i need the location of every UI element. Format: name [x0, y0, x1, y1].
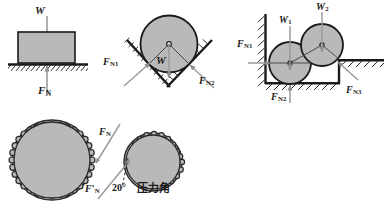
- label-W2-corner: W2: [316, 2, 329, 13]
- label-FN2-vee: FN2: [199, 76, 214, 87]
- label-FN-gear: FN: [99, 127, 111, 138]
- normal-force-arrow-FN1: [124, 63, 150, 86]
- left-wall-hatching: [258, 16, 265, 86]
- label-W-block: W: [35, 5, 45, 16]
- normal-force-arrow-FN3: [338, 62, 358, 80]
- block-body: [18, 32, 75, 63]
- physics-force-diagram-figure: W FN FN1 W FN2 FN1 W1 W2 FN2 FN3 FN F'N …: [0, 0, 384, 211]
- bottom-wall-hatching: [266, 84, 336, 90]
- panel-block-on-ground: [8, 16, 88, 95]
- gear-large: [9, 120, 95, 200]
- label-FN1-vee: FN1: [103, 57, 118, 68]
- gear-force-arrow-FN-prime: [98, 160, 130, 199]
- right-surface-hatching: [340, 61, 384, 67]
- label-FN-block: FN: [38, 85, 51, 97]
- label-FN3-corner: FN3: [346, 85, 361, 96]
- diagram-canvas: [0, 0, 384, 211]
- label-pressure-angle-chinese: 压力角: [137, 183, 170, 194]
- label-pressure-angle-value: 20°: [112, 183, 126, 193]
- label-FN-prime-gear: F'N: [85, 184, 100, 195]
- label-FN1-corner: FN1: [237, 39, 252, 50]
- label-W1-corner: W1: [279, 15, 292, 26]
- label-W-vee: W: [156, 55, 166, 66]
- panel-two-cylinders-corner: [248, 12, 384, 103]
- label-FN2-corner: FN2: [271, 92, 286, 103]
- ground-hatching: [8, 65, 88, 71]
